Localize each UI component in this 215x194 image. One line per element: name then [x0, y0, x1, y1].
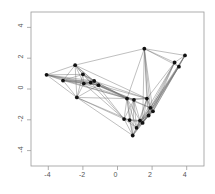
graph-node[interactable]	[61, 79, 65, 83]
graph-node[interactable]	[151, 109, 155, 113]
graph-node[interactable]	[147, 114, 151, 118]
graph-node[interactable]	[135, 126, 139, 130]
graph-node[interactable]	[92, 79, 96, 83]
y-tick-label: 0	[17, 82, 24, 94]
graph-node[interactable]	[173, 61, 177, 65]
plot-background	[0, 0, 215, 194]
graph-node[interactable]	[125, 97, 129, 101]
graph-node[interactable]	[81, 72, 85, 76]
graph-node[interactable]	[131, 134, 135, 138]
graph-node[interactable]	[73, 63, 77, 67]
x-tick-label: -4	[44, 171, 50, 178]
graph-node[interactable]	[75, 96, 79, 100]
graph-node[interactable]	[89, 81, 93, 85]
graph-node[interactable]	[183, 54, 187, 58]
x-tick-label: 0	[114, 171, 118, 178]
x-tick-label: -2	[79, 171, 85, 178]
graph-node[interactable]	[132, 98, 136, 102]
plot-canvas	[0, 0, 215, 194]
y-tick-label: 2	[17, 51, 24, 63]
graph-node[interactable]	[142, 47, 146, 51]
network-plot-figure: -4-2024 420-2-4	[0, 0, 215, 194]
graph-node[interactable]	[145, 97, 149, 101]
y-tick-label: -2	[17, 112, 24, 124]
graph-node[interactable]	[122, 117, 126, 121]
graph-node[interactable]	[177, 65, 181, 69]
y-tick-label: -4	[17, 143, 24, 155]
x-tick-label: 4	[183, 171, 187, 178]
y-tick-label: 4	[17, 20, 24, 32]
graph-node[interactable]	[141, 121, 145, 125]
x-tick-label: 2	[148, 171, 152, 178]
graph-node[interactable]	[45, 73, 49, 77]
graph-node[interactable]	[128, 118, 132, 122]
graph-node[interactable]	[148, 106, 152, 110]
graph-node[interactable]	[82, 82, 86, 86]
graph-node[interactable]	[97, 83, 101, 87]
